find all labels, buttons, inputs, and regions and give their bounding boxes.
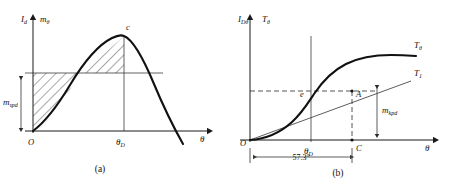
svg-text:mθ: mθ <box>40 14 50 25</box>
origin-label: O <box>28 137 34 147</box>
x-axis-label: θ <box>200 134 205 144</box>
y-axis-label-left-sub: Dθ <box>240 19 248 25</box>
figure-root: Id mθ θ O c θD mspd (a) <box>0 0 453 181</box>
x-axis-label: θ <box>425 143 430 153</box>
m-kpd-label: mkpd <box>382 105 398 116</box>
point-c-label: C <box>356 143 362 153</box>
svg-text:Id: Id <box>20 14 28 25</box>
y-axis-label-group: IDθ Tθ <box>237 14 270 25</box>
t-theta-curve-label: Tθ <box>414 40 422 51</box>
inflection-label: e <box>300 89 304 99</box>
theta-d-tick-label: θD <box>116 137 125 148</box>
t-theta-curve <box>250 55 416 140</box>
origin-label: O <box>240 138 246 148</box>
t1-curve-label: T1 <box>414 68 422 79</box>
point-a-marker <box>350 89 353 92</box>
y-axis-label-right-sub: θ <box>267 19 270 25</box>
point-a-label: A <box>355 89 362 99</box>
peak-label: c <box>126 22 130 32</box>
m-spd-label: mspd <box>3 97 19 108</box>
y-axis-label-left-sub: d <box>24 19 28 25</box>
y-axis-label-group: Id mθ <box>20 14 50 25</box>
panel-a-chart: Id mθ θ O c θD mspd (a) <box>0 0 226 181</box>
svg-text:Tθ: Tθ <box>262 14 270 25</box>
panel-b-caption: (b) <box>332 168 343 179</box>
hatched-surplus-area <box>70 25 140 85</box>
svg-text:IDθ: IDθ <box>237 14 248 25</box>
panel-a-caption: (a) <box>95 164 106 175</box>
point-c-marker <box>350 138 353 141</box>
y-axis-label-right-sub: θ <box>47 19 50 25</box>
panel-b-chart: IDθ Tθ θ O e θD A C Tθ T1 mkpd 57.3° (b) <box>226 0 453 181</box>
